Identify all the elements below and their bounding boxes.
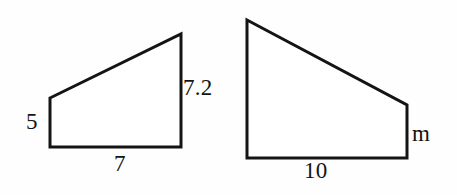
left-trapezoid-shape: [50, 34, 181, 147]
left-trapezoid-left-side-label: 5: [26, 110, 38, 133]
right-trapezoid-right-side-label: m: [412, 122, 430, 145]
right-trapezoid-shape: [247, 20, 407, 158]
right-trapezoid-bottom-side-label: 10: [304, 159, 327, 182]
left-trapezoid-bottom-side-label: 7: [114, 152, 126, 175]
left-trapezoid-right-side-label: 7.2: [183, 76, 212, 99]
shapes-canvas: [0, 0, 457, 195]
geometry-figure: 5 7.2 7 10 m: [0, 0, 457, 195]
